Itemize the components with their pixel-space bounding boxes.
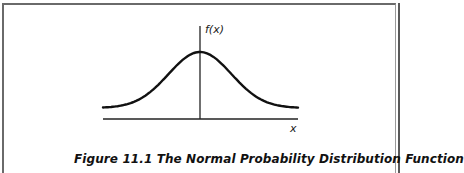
- y-axis-label: f(x): [205, 23, 224, 36]
- figure-caption: Figure 11.1 The Normal Probability Distr…: [74, 152, 464, 166]
- x-axis-label: x: [290, 122, 297, 135]
